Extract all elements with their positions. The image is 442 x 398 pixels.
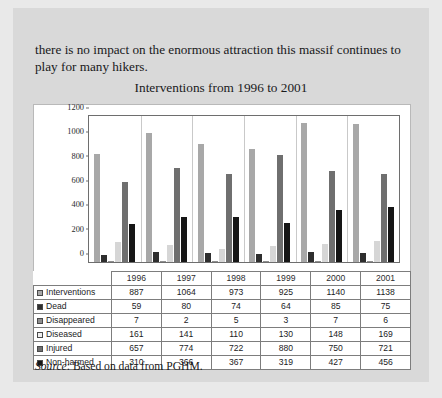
bar — [374, 241, 380, 262]
table-row: Dead598074648575 — [34, 300, 411, 314]
y-axis-tick: 200 — [71, 224, 89, 233]
bar — [284, 223, 290, 262]
bar — [115, 242, 121, 262]
legend-swatch-icon — [37, 304, 43, 310]
bar — [146, 133, 152, 262]
column-header-year: 1997 — [161, 272, 211, 286]
bar — [308, 252, 314, 262]
table-cell: 722 — [211, 342, 261, 356]
table-cell: 1064 — [161, 286, 211, 300]
bar — [212, 261, 218, 262]
table-cell: 7 — [311, 314, 361, 328]
table-cell: 721 — [361, 342, 411, 356]
table-cell: 456 — [361, 356, 411, 370]
bar — [277, 155, 283, 262]
bar — [122, 182, 128, 262]
bar — [94, 154, 100, 262]
bar-group — [141, 116, 193, 262]
bar — [322, 244, 328, 262]
bar — [315, 261, 321, 262]
column-header-year: 2001 — [361, 272, 411, 286]
group-separator — [296, 116, 297, 262]
column-header-year: 1999 — [261, 272, 311, 286]
y-axis-tick: 800 — [71, 151, 89, 160]
table-cell: 148 — [311, 328, 361, 342]
data-table: 199619971998199920002001Interventions887… — [33, 271, 411, 370]
table-cell: 59 — [112, 300, 162, 314]
column-header-year: 2000 — [311, 272, 361, 286]
legend-swatch-icon — [37, 318, 43, 324]
row-header-interventions: Interventions — [34, 286, 112, 300]
row-label: Interventions — [46, 287, 95, 297]
table-cell: 110 — [211, 328, 261, 342]
group-separator — [141, 116, 142, 262]
bar — [167, 245, 173, 262]
row-header-disappeared: Disappeared — [34, 314, 112, 328]
table-cell: 6 — [361, 314, 411, 328]
chart-figure: 020040060080010001200 — [33, 104, 411, 284]
bar-group — [347, 116, 399, 262]
group-separator — [192, 116, 193, 262]
y-axis-tick: 1000 — [67, 127, 89, 136]
table-header-row: 199619971998199920002001 — [34, 272, 411, 286]
row-label: Injured — [46, 343, 72, 353]
table-row: Injured657774722880750721 — [34, 342, 411, 356]
bar — [198, 144, 204, 262]
table-cell: 5 — [211, 314, 261, 328]
row-header-dead: Dead — [34, 300, 112, 314]
group-separator — [244, 116, 245, 262]
bar — [226, 174, 232, 262]
bar — [233, 217, 239, 262]
table-row: Interventions887106497392511401138 — [34, 286, 411, 300]
bar — [129, 224, 135, 262]
table-cell: 130 — [261, 328, 311, 342]
table-cell: 141 — [161, 328, 211, 342]
table-row: Disappeared725376 — [34, 314, 411, 328]
body-paragraph: there is no impact on the enormous attra… — [35, 41, 407, 75]
bar — [367, 261, 373, 262]
row-header-diseased: Diseased — [34, 328, 112, 342]
source-text: : Based on data from PGHM. — [67, 360, 203, 373]
bar — [336, 210, 342, 262]
bar-group — [244, 116, 296, 262]
bar — [174, 168, 180, 262]
table-cell: 319 — [261, 356, 311, 370]
source-label: Source — [35, 360, 67, 373]
bar — [249, 149, 255, 262]
bar — [388, 207, 394, 262]
table-cell: 7 — [112, 314, 162, 328]
table-cell: 75 — [361, 300, 411, 314]
table-body: 199619971998199920002001Interventions887… — [34, 272, 411, 370]
table-cell: 169 — [361, 328, 411, 342]
bar — [270, 246, 276, 262]
row-label: Disappeared — [46, 315, 95, 325]
bar — [108, 261, 114, 262]
bar — [360, 253, 366, 262]
table-cell: 64 — [261, 300, 311, 314]
bar — [353, 124, 359, 262]
bar-group — [296, 116, 348, 262]
y-axis-tick: 600 — [71, 176, 89, 185]
bar — [160, 261, 166, 262]
legend-swatch-icon — [37, 290, 43, 296]
row-header-injured: Injured — [34, 342, 112, 356]
table-cell: 887 — [112, 286, 162, 300]
bar — [301, 123, 307, 262]
table-cell: 427 — [311, 356, 361, 370]
legend-swatch-icon — [37, 332, 43, 338]
table-cell: 657 — [112, 342, 162, 356]
table-cell: 367 — [211, 356, 261, 370]
legend-swatch-icon — [37, 346, 43, 352]
chart-title: Interventions from 1996 to 2001 — [13, 80, 429, 96]
table-cell: 161 — [112, 328, 162, 342]
bar-group — [192, 116, 244, 262]
bar — [381, 174, 387, 262]
table-cell: 74 — [211, 300, 261, 314]
y-axis-tick: 400 — [71, 200, 89, 209]
bar — [329, 171, 335, 262]
document-page: there is no impact on the enormous attra… — [13, 8, 429, 382]
table-cell: 2 — [161, 314, 211, 328]
bar — [205, 253, 211, 262]
row-label: Dead — [46, 301, 67, 311]
bar — [219, 249, 225, 262]
